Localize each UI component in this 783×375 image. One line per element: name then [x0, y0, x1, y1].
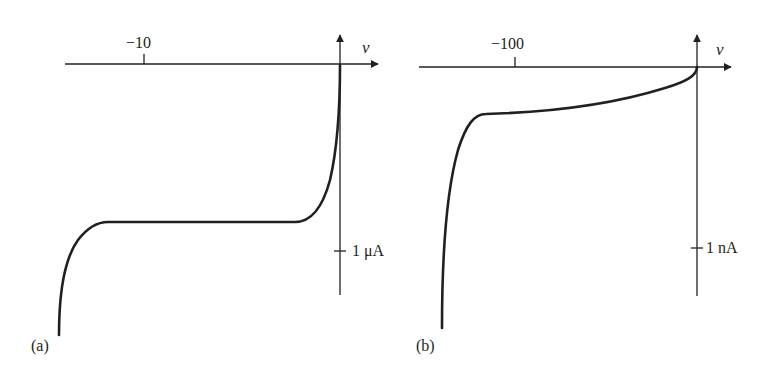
x-axis-label-b: ν [716, 41, 724, 58]
panel-b [419, 35, 731, 328]
iv-curves-figure [0, 0, 783, 375]
y-tick-label-a: 1 μA [352, 243, 384, 259]
x-axis-label-a: ν [362, 39, 370, 56]
iv-curve-a [59, 65, 340, 335]
panel-label-b: (b) [416, 338, 435, 354]
y-tick-label-b: 1 nA [706, 240, 738, 256]
iv-curve-b [442, 67, 697, 328]
panel-a [59, 35, 378, 335]
x-tick-label-b: −100 [491, 36, 524, 52]
panel-label-a: (a) [31, 338, 49, 354]
x-tick-label-a: −10 [126, 35, 151, 51]
